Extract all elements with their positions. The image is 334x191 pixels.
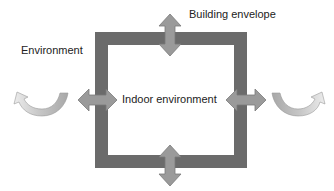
- indoor-environment-label: Indoor environment: [122, 94, 217, 105]
- environment-label: Environment: [21, 45, 83, 56]
- building-envelope-label: Building envelope: [189, 9, 276, 20]
- right-curved-arrow-icon: [272, 92, 325, 116]
- left-curved-arrow-icon: [14, 92, 68, 116]
